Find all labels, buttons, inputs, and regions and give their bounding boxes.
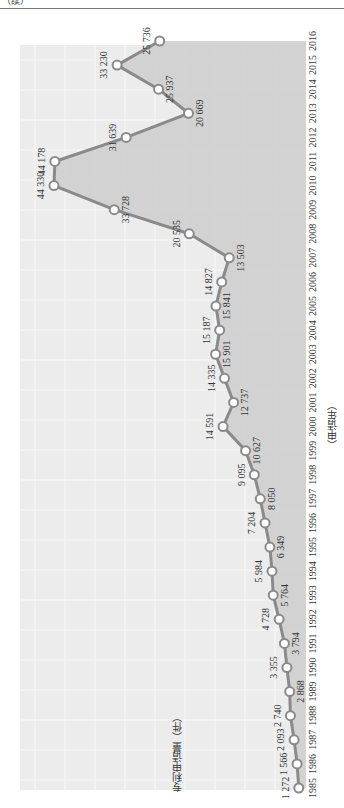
data-point-marker xyxy=(154,85,163,94)
x-tick-label: 1993 xyxy=(307,585,318,605)
data-label: 20 535 xyxy=(171,220,182,248)
data-point-marker xyxy=(275,615,284,624)
data-label: 25 937 xyxy=(164,75,175,103)
data-point-marker xyxy=(211,350,220,359)
x-tick-label: 2010 xyxy=(307,176,318,196)
data-label: 33 230 xyxy=(98,51,109,79)
data-label: 2 740 xyxy=(272,704,283,727)
data-point-marker xyxy=(261,518,270,527)
x-tick-label: 2009 xyxy=(307,200,318,220)
data-label: 3 794 xyxy=(290,632,301,655)
data-point-marker xyxy=(215,326,224,335)
data-point-marker xyxy=(122,133,131,142)
data-label: 5 984 xyxy=(253,560,264,583)
data-label: 14 827 xyxy=(203,268,214,296)
data-label: 9 095 xyxy=(236,463,247,486)
x-tick-label: 1995 xyxy=(307,537,318,557)
x-tick-label: 1986 xyxy=(307,754,318,774)
data-point-marker xyxy=(256,494,265,503)
x-tick-label: 1988 xyxy=(307,706,318,726)
x-tick-label: 1985 xyxy=(307,778,318,798)
data-point-marker xyxy=(50,157,59,166)
data-point-marker xyxy=(294,784,303,793)
data-point-marker xyxy=(269,591,278,600)
data-label: 10 627 xyxy=(251,437,262,465)
x-tick-label: 2016 xyxy=(307,31,318,51)
data-point-marker xyxy=(184,109,193,118)
x-tick-label: 2000 xyxy=(307,417,318,437)
data-point-marker xyxy=(250,470,259,479)
x-tick-label: 2006 xyxy=(307,272,318,292)
data-point-marker xyxy=(290,735,299,744)
data-label: 15 901 xyxy=(221,341,232,369)
x-axis-label: （申请年） xyxy=(325,400,340,450)
data-point-marker xyxy=(211,302,220,311)
data-label: 8 050 xyxy=(266,488,277,511)
x-tick-label: 2001 xyxy=(307,392,318,412)
data-label: 1 272 xyxy=(280,777,291,800)
patent-applications-area-chart: 1 2721 5662 0932 7402 8683 3553 7944 728… xyxy=(0,0,344,808)
x-tick-label: 1992 xyxy=(307,609,318,629)
x-tick-label: 2005 xyxy=(307,296,318,316)
data-point-marker xyxy=(50,181,59,190)
data-label: 15 841 xyxy=(221,292,232,320)
x-tick-label: 2015 xyxy=(307,55,318,75)
data-label: 15 187 xyxy=(201,316,212,344)
y-axis-label: 专利申请量（件） xyxy=(170,712,185,792)
x-tick-label: 2011 xyxy=(307,152,318,172)
data-point-marker xyxy=(229,398,238,407)
data-label: 3 355 xyxy=(268,656,279,679)
data-label: 14 335 xyxy=(206,365,217,393)
data-label: 6 349 xyxy=(275,536,286,559)
data-label: 31 639 xyxy=(107,124,118,152)
data-label: 25 736 xyxy=(141,27,152,55)
x-tick-label: 1991 xyxy=(307,633,318,653)
data-label: 44 178 xyxy=(36,148,47,176)
data-point-marker xyxy=(185,229,194,238)
x-tick-label: 2007 xyxy=(307,248,318,268)
data-point-marker xyxy=(217,277,226,286)
data-label: 5 764 xyxy=(279,584,290,607)
x-tick-label: 1990 xyxy=(307,658,318,678)
x-tick-label: 2014 xyxy=(307,79,318,99)
data-point-marker xyxy=(285,687,294,696)
x-tick-label: 2003 xyxy=(307,344,318,364)
x-tick-label: 1999 xyxy=(307,441,318,461)
x-tick-label: 2002 xyxy=(307,368,318,388)
data-label: 1 566 xyxy=(278,753,289,776)
data-point-marker xyxy=(280,639,289,648)
data-label: 33 728 xyxy=(120,196,131,224)
data-point-marker xyxy=(293,759,302,768)
x-tick-label: 1997 xyxy=(307,489,318,509)
data-point-marker xyxy=(113,61,122,70)
x-tick-label: 1987 xyxy=(307,730,318,750)
data-point-marker xyxy=(110,205,119,214)
data-label: 2 868 xyxy=(295,680,306,703)
data-label: 14 591 xyxy=(204,413,215,441)
data-point-marker xyxy=(225,253,234,262)
x-tick-label: 1996 xyxy=(307,513,318,533)
x-tick-label: 2008 xyxy=(307,224,318,244)
data-label: 13 503 xyxy=(235,244,246,271)
x-tick-label: 2013 xyxy=(307,103,318,123)
data-point-marker xyxy=(241,446,250,455)
data-label: 2 093 xyxy=(275,729,286,752)
x-tick-label: 1989 xyxy=(307,682,318,702)
data-label: 4 728 xyxy=(260,608,271,631)
data-point-marker xyxy=(155,37,164,46)
data-point-marker xyxy=(282,663,291,672)
data-label: 7 204 xyxy=(246,512,257,535)
data-label: 12 737 xyxy=(239,389,250,417)
data-point-marker xyxy=(219,422,228,431)
data-point-marker xyxy=(265,543,274,552)
x-tick-label: 2012 xyxy=(307,127,318,147)
x-tick-label: 2004 xyxy=(307,320,318,340)
data-label: 20 669 xyxy=(194,100,205,128)
data-point-marker xyxy=(267,567,276,576)
x-tick-label: 1998 xyxy=(307,465,318,485)
x-tick-label: 1994 xyxy=(307,561,318,581)
data-point-marker xyxy=(286,711,295,720)
data-point-marker xyxy=(220,374,229,383)
